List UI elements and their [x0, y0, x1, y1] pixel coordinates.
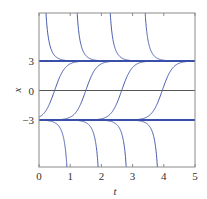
x-axis-label: t	[113, 185, 117, 197]
chart: 012345 30−3 t x	[0, 0, 207, 199]
x-tick-label: 0	[36, 170, 42, 182]
solution-curve	[39, 120, 129, 179]
solution-curve	[107, 2, 195, 61]
y-tick-label: 0	[29, 85, 35, 97]
y-axis-ticks: 30−3	[22, 55, 34, 126]
x-tick-label: 5	[192, 170, 198, 182]
y-tick-label: 3	[29, 55, 35, 67]
y-tick-label: −3	[22, 114, 34, 126]
x-axis-ticks: 012345	[36, 13, 198, 182]
x-tick-label: 2	[99, 170, 105, 182]
y-axis-label: x	[11, 87, 23, 93]
solution-curve	[142, 2, 195, 61]
x-tick-label: 1	[67, 170, 73, 182]
x-tick-label: 3	[130, 170, 136, 182]
solution-curve	[39, 120, 70, 179]
x-tick-label: 4	[161, 170, 167, 182]
solution-curve	[74, 2, 195, 61]
solution-curve	[43, 2, 195, 61]
